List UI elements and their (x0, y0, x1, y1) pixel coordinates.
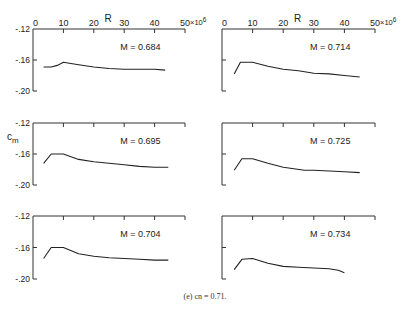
mach-annotation: M = 0.684 (120, 42, 160, 52)
x-tick-label: 0 (222, 18, 227, 28)
mach-annotation: M = 0.695 (120, 136, 160, 146)
x-tick-label: 40 (150, 18, 160, 28)
chart-figure: 01020304050×106R-.12-.16-.20M = 0.684010… (0, 0, 410, 311)
x-tick-label: 20 (89, 18, 99, 28)
cm-curve (44, 62, 166, 70)
x-tick-label: 0 (33, 18, 38, 28)
x-tick-label: 10 (248, 18, 258, 28)
x-axis-title: R (294, 13, 301, 24)
y-tick-label: -.20 (15, 180, 30, 190)
y-axis-title: cm (7, 131, 19, 145)
cm-curve (44, 248, 169, 261)
figure-caption: (e) cn = 0.71. (0, 292, 410, 301)
mach-annotation: M = 0.734 (310, 229, 350, 239)
x-axis-title: R (104, 13, 111, 24)
mach-annotation: M = 0.704 (120, 229, 160, 239)
y-tick-label: -.16 (15, 243, 30, 253)
x-tick-label: 50 (370, 18, 380, 28)
x-tick-label: 40 (339, 18, 349, 28)
cm-curve (234, 159, 360, 173)
mach-annotation: M = 0.725 (310, 136, 350, 146)
x-tick-label: 30 (309, 18, 319, 28)
x-unit-label: ×106 (380, 16, 397, 27)
y-tick-label: -.16 (15, 55, 30, 65)
y-tick-label: -.12 (15, 24, 30, 34)
y-tick-label: -.16 (15, 149, 30, 159)
x-unit-label: ×106 (190, 16, 207, 27)
x-tick-label: 20 (278, 18, 288, 28)
x-tick-label: 30 (119, 18, 129, 28)
caption-text: (e) cn = 0.71. (184, 292, 227, 301)
cm-curve (234, 259, 344, 273)
y-tick-label: -.12 (15, 211, 30, 221)
x-tick-label: 10 (58, 18, 68, 28)
x-tick-label: 50 (180, 18, 190, 28)
mach-annotation: M = 0.714 (310, 42, 350, 52)
cm-curve (44, 154, 169, 167)
cm-curve (234, 62, 360, 77)
y-tick-label: -.20 (15, 274, 30, 284)
y-tick-label: -.12 (15, 118, 30, 128)
y-tick-label: -.20 (15, 86, 30, 96)
